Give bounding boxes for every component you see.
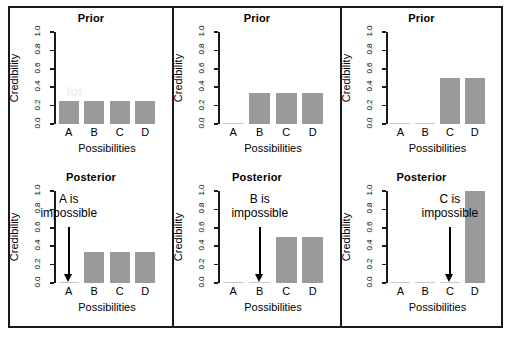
panel-2-prior-chart: Prior 0.00.20.40.60.81.0CredibilityABCD …	[174, 8, 340, 167]
y-axis-title: Credibility	[172, 213, 184, 261]
bar-zero	[390, 123, 410, 124]
y-axis-tick-label: 0.4	[366, 235, 374, 255]
y-axis-tick-label: 0.6	[34, 58, 42, 78]
x-axis-tick-label: B	[82, 286, 108, 297]
panel-2-posterior-chart: Posterior 0.00.20.40.60.81.0CredibilityA…	[174, 167, 340, 326]
bar-zero	[223, 123, 244, 124]
annotation-arrow-shaft	[259, 227, 261, 275]
bar-zero	[59, 282, 79, 283]
x-axis-tick-label: C	[438, 286, 463, 297]
bar	[276, 93, 297, 124]
bar	[110, 252, 130, 283]
x-axis-title: Possibilities	[218, 301, 328, 313]
y-axis-tick-label: 0.4	[34, 235, 42, 255]
bar	[135, 101, 155, 124]
y-axis-tick	[214, 282, 218, 284]
y-axis-tick	[214, 31, 218, 33]
x-axis-tick-label: C	[107, 286, 133, 297]
panel-3-prior-chart: Prior 0.00.20.40.60.81.0CredibilityABCD …	[342, 8, 501, 167]
annotation-arrow-head	[64, 274, 72, 282]
y-axis-tick	[382, 264, 386, 266]
y-axis-tick-label: 0.2	[198, 254, 206, 274]
y-axis-tick	[382, 227, 386, 229]
x-axis-tick-label: B	[247, 127, 274, 138]
panel-1-prior-chart: Prior 0.00.20.40.60.81.0CredibilityABCDf…	[10, 8, 172, 167]
x-axis-tick-label: D	[300, 286, 327, 297]
y-axis-tick-label: 0.8	[198, 39, 206, 59]
panel-2: Prior 0.00.20.40.60.81.0CredibilityABCD …	[174, 8, 340, 326]
y-axis-tick-label: 0.8	[34, 39, 42, 59]
x-axis-tick-label: D	[462, 286, 487, 297]
y-axis-tick	[50, 31, 54, 33]
x-axis-tick-label: B	[413, 127, 438, 138]
y-axis-tick	[50, 245, 54, 247]
x-axis-tick-label: B	[413, 286, 438, 297]
bar	[276, 237, 297, 283]
annotation-arrow-shaft	[68, 227, 70, 275]
y-axis-tick	[382, 50, 386, 52]
y-axis-tick-label: 0.8	[366, 198, 374, 218]
bar-group: ABCD	[388, 32, 489, 124]
bar	[84, 252, 104, 283]
y-axis-tick-label: 0.2	[34, 254, 42, 274]
y-axis-tick	[382, 282, 386, 284]
plot-area: 0.00.20.40.60.81.0CredibilityABCDB isimp…	[218, 191, 328, 283]
x-axis-tick-label: D	[300, 127, 327, 138]
x-axis-tick-label: B	[82, 127, 108, 138]
y-axis-tick	[214, 86, 218, 88]
y-axis-tick	[382, 245, 386, 247]
y-axis-tick-label: 0.6	[198, 217, 206, 237]
x-axis-tick-label: A	[388, 286, 413, 297]
y-axis-tick-label: 0.4	[34, 76, 42, 96]
bar	[440, 78, 460, 124]
y-axis-tick	[50, 264, 54, 266]
y-axis-tick-label: 0.2	[366, 95, 374, 115]
plot-area: 0.00.20.40.60.81.0CredibilityABCDC isimp…	[386, 191, 489, 283]
x-axis-tick-label: B	[247, 286, 274, 297]
y-axis-tick-label: 0.2	[366, 254, 374, 274]
bar-zero	[223, 282, 244, 283]
y-axis-tick	[50, 50, 54, 52]
x-axis-tick-label: C	[438, 127, 463, 138]
x-axis-tick-label: A	[56, 286, 82, 297]
y-axis-tick	[214, 68, 218, 70]
x-axis-title: Possibilities	[54, 142, 160, 154]
x-axis-tick-label: C	[273, 127, 300, 138]
y-axis-tick	[382, 68, 386, 70]
y-axis-tick-label: 0.8	[366, 39, 374, 59]
annotation-line-1: B is	[231, 193, 288, 207]
annotation-arrow-shaft	[449, 227, 451, 275]
x-axis-tick-label: A	[220, 127, 247, 138]
annotation-line-2: impossible	[422, 207, 479, 221]
y-axis-tick	[214, 123, 218, 125]
bar	[302, 237, 323, 283]
bar	[135, 252, 155, 283]
y-axis-tick-label: 0.0	[366, 113, 374, 133]
y-axis-tick	[214, 50, 218, 52]
y-axis-tick-label: 0.0	[34, 272, 42, 292]
bar-zero	[415, 282, 435, 283]
annotation-line-1: C is	[422, 193, 479, 207]
y-axis-tick	[214, 245, 218, 247]
annotation-text: A isimpossible	[40, 193, 97, 221]
y-axis-tick-label: 0.2	[34, 95, 42, 115]
y-axis-tick	[50, 86, 54, 88]
y-axis-tick	[214, 105, 218, 107]
bar	[465, 78, 485, 124]
y-axis-tick-label: 1.0	[34, 21, 42, 41]
y-axis-tick-label: 1.0	[366, 180, 374, 200]
y-axis-tick	[50, 227, 54, 229]
y-axis-tick-label: 1.0	[198, 180, 206, 200]
y-axis-tick-label: 0.4	[198, 235, 206, 255]
y-axis-tick	[214, 264, 218, 266]
y-axis-tick	[214, 209, 218, 211]
y-axis-tick	[382, 123, 386, 125]
x-axis-title: Possibilities	[218, 142, 328, 154]
y-axis-tick	[214, 190, 218, 192]
y-axis-tick-label: 0.6	[366, 217, 374, 237]
plot-area: 0.00.20.40.60.81.0CredibilityABCDfor	[54, 32, 160, 124]
bar	[59, 101, 79, 124]
x-axis-tick-label: C	[273, 286, 300, 297]
x-axis-title: Possibilities	[386, 301, 489, 313]
annotation-line-2: impossible	[231, 207, 288, 221]
